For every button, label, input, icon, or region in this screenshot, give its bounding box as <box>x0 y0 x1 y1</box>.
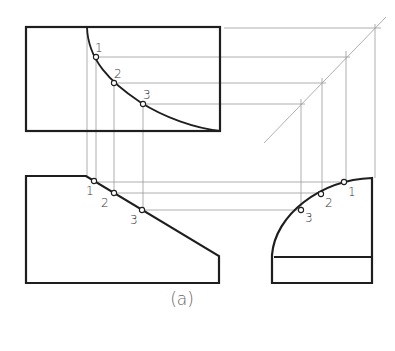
front-label-2: 2 <box>101 196 109 210</box>
top-view-outline <box>26 27 220 131</box>
side-point-1 <box>341 179 346 184</box>
side-point-3 <box>298 207 303 212</box>
side-point-2 <box>318 191 323 196</box>
front-point-3 <box>139 207 144 212</box>
top-label-2: 2 <box>114 67 122 81</box>
front-label-3: 3 <box>130 213 138 227</box>
top-point-3 <box>140 101 145 106</box>
top-point-2 <box>111 80 116 85</box>
top-point-1 <box>93 54 98 59</box>
top-label-1: 1 <box>95 41 103 55</box>
front-view-outline <box>26 176 219 283</box>
front-label-1: 1 <box>86 184 94 198</box>
front-point-2 <box>111 190 116 195</box>
side-label-1: 1 <box>348 185 356 199</box>
figure-caption: (a) <box>170 289 194 309</box>
right-side-view: 1 2 3 <box>272 178 372 283</box>
top-view-curve <box>87 27 220 131</box>
side-label-3: 3 <box>305 211 313 225</box>
front-view: 1 2 3 <box>26 176 219 283</box>
top-label-3: 3 <box>143 88 151 102</box>
orthographic-projection-drawing: 1 2 3 1 2 3 1 2 3 (a) <box>0 0 395 351</box>
side-label-2: 2 <box>325 196 333 210</box>
miter-line <box>264 17 386 143</box>
top-view: 1 2 3 <box>26 27 220 131</box>
front-point-1 <box>91 178 96 183</box>
